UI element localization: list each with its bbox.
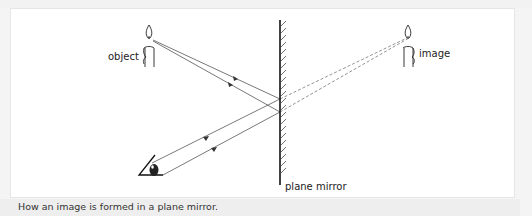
incident-rays — [153, 40, 280, 112]
image-label: image — [419, 48, 450, 59]
plane-mirror-diagram: object image — [0, 0, 532, 216]
image-candle-icon — [403, 25, 414, 67]
incident-arrow-1 — [233, 76, 238, 81]
reflected-arrow-2 — [211, 147, 217, 152]
incident-arrow-2 — [228, 82, 233, 87]
plane-mirror — [280, 20, 286, 185]
virtual-rays — [280, 37, 409, 112]
reflected-rays — [152, 99, 280, 175]
eye-icon — [139, 155, 163, 176]
mirror-label: plane mirror — [285, 181, 347, 192]
object-candle-icon — [143, 25, 154, 67]
object-label: object — [108, 51, 139, 62]
